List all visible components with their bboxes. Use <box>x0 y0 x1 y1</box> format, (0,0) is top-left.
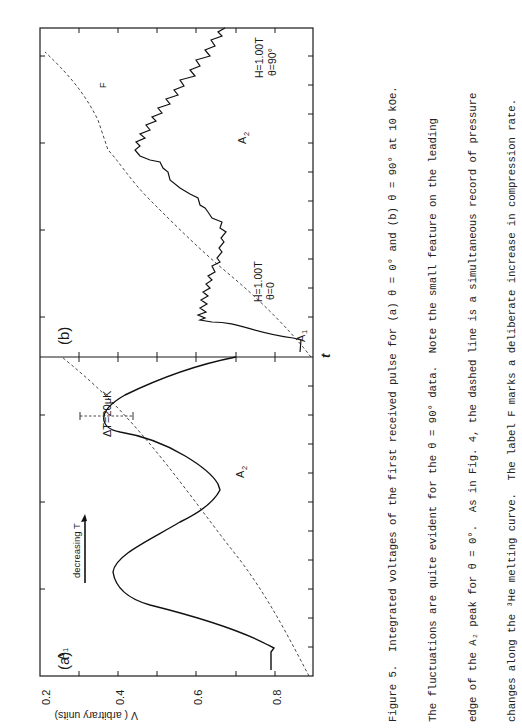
delta-t-label: ΔT=20μK <box>101 390 113 437</box>
f-label: F <box>98 82 108 88</box>
caption-line: The fluctuations are quite evident for t… <box>427 0 440 722</box>
theta-label-a: θ=0 <box>264 282 276 300</box>
panel-b-label: (b) <box>55 327 72 345</box>
theta-label-b: θ=90° <box>266 48 278 76</box>
a1-sub-a: 1 <box>61 648 70 652</box>
a2-label-b: A <box>236 136 248 144</box>
ytick-label: 0.6 <box>192 690 204 705</box>
decreasing-t-label: decreasing T <box>71 523 82 578</box>
caption-line: Figure 5. Integrated voltages of the fir… <box>387 0 400 722</box>
panel-a-voltage-curve <box>104 357 274 670</box>
a2-sub-a: 2 <box>240 466 249 470</box>
y-axis-label: V ( arbitrary units) <box>55 710 138 722</box>
caption-line: edge of the A₂ peak for θ = 0°. As in Fi… <box>467 0 480 722</box>
x-axis-label-t: t <box>318 353 333 358</box>
a2-label-a: A <box>234 470 246 478</box>
a1-sub-b: 1 <box>300 330 309 334</box>
field-label-a: H=1.00T <box>252 261 264 302</box>
panel-b-dashed-pressure <box>45 52 311 357</box>
a1-label-a: A <box>56 652 68 660</box>
ytick-label: 0.8 <box>271 690 283 705</box>
figure-caption: Figure 5. Integrated voltages of the fir… <box>357 0 467 728</box>
y-tick-labels: 0.2 0.4 0.6 0.8 <box>40 690 283 705</box>
panel-a-dashed-pressure <box>62 357 309 676</box>
ytick-label: 0.2 <box>40 690 52 705</box>
a1-label-b: A <box>295 334 307 342</box>
field-label-b: H=1.00T <box>253 37 265 78</box>
a2-sub-b: 2 <box>242 132 251 136</box>
caption-line: changes along the ³He melting curve. The… <box>506 0 519 722</box>
ytick-label: 0.4 <box>114 690 126 705</box>
arrow-head-icon <box>81 514 87 522</box>
